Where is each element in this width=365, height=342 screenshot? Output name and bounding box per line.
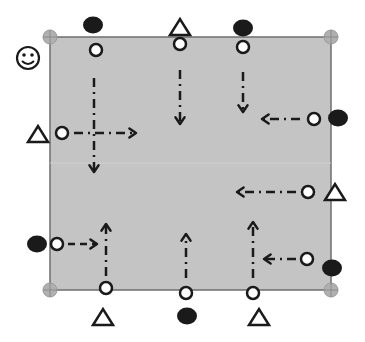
cone-triangle-icon	[93, 309, 113, 325]
player-open-icon	[90, 44, 102, 56]
smiley-eye-icon	[30, 53, 34, 57]
player-open-icon	[308, 113, 320, 125]
corner-marker-icon	[324, 30, 338, 44]
player-open-icon	[302, 186, 314, 198]
player-filled-icon	[177, 308, 197, 325]
drill-diagram	[0, 0, 365, 342]
cone-triangle-icon	[28, 126, 48, 142]
coach-smiley-icon	[17, 47, 39, 69]
player-filled-icon	[233, 20, 253, 37]
player-open-icon	[174, 38, 186, 50]
player-open-icon	[51, 238, 63, 250]
player-open-icon	[237, 41, 249, 53]
corner-marker-icon	[43, 283, 57, 297]
cone-triangle-icon	[249, 309, 269, 325]
corner-marker-icon	[43, 30, 57, 44]
player-filled-icon	[27, 236, 47, 253]
diagram-canvas	[0, 0, 365, 342]
player-open-icon	[100, 282, 112, 294]
player-open-icon	[56, 127, 68, 139]
player-open-icon	[180, 287, 192, 299]
player-filled-icon	[328, 110, 348, 127]
player-open-icon	[301, 253, 313, 265]
player-filled-icon	[322, 260, 342, 277]
player-open-icon	[247, 287, 259, 299]
cone-triangle-icon	[170, 19, 190, 35]
player-filled-icon	[83, 17, 103, 34]
smiley-eye-icon	[22, 53, 26, 57]
corner-marker-icon	[324, 283, 338, 297]
